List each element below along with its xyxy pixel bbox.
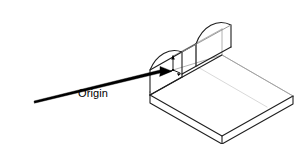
origin-label: Origin xyxy=(78,87,108,100)
isometric-part-drawing xyxy=(0,0,301,144)
